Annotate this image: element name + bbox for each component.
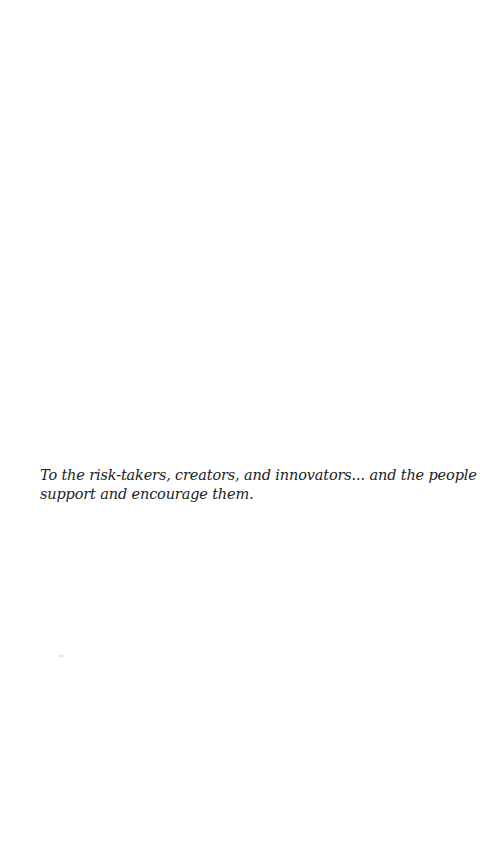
book-page: To the risk-takers, creators, and innova… <box>0 0 480 862</box>
dedication-line-2: support and encourage them. <box>40 485 470 504</box>
page-mark <box>58 655 64 657</box>
dedication-text: To the risk-takers, creators, and innova… <box>40 466 470 504</box>
dedication-line-1: To the risk-takers, creators, and innova… <box>40 466 470 485</box>
